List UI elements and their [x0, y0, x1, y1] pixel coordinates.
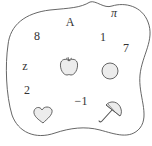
element-A: A: [66, 16, 75, 28]
umbrella-icon: [96, 99, 124, 125]
element-7: 7: [123, 42, 129, 54]
apple-icon: [58, 55, 80, 77]
element-1: 1: [100, 31, 106, 43]
heart-icon: [32, 105, 54, 125]
element-8: 8: [34, 30, 40, 42]
element-pi: π: [111, 7, 117, 19]
element-z: z: [22, 60, 27, 72]
element-2: 2: [24, 84, 30, 96]
circle-icon: [100, 61, 120, 81]
element-minus-1: −1: [75, 95, 88, 107]
